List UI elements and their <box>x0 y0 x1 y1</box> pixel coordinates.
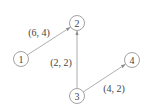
edge-labels: (6, 4) (2, 2) (4, 2) <box>28 27 125 95</box>
node-1[interactable]: 1 <box>14 52 29 67</box>
node-2-label: 2 <box>75 18 80 29</box>
node-4-label: 4 <box>130 55 135 66</box>
edge-label-3-to-4: (4, 2) <box>103 83 125 95</box>
node-3[interactable]: 3 <box>70 89 85 104</box>
edge-label-3-to-2: (2, 2) <box>50 57 72 69</box>
node-4[interactable]: 4 <box>125 53 140 68</box>
node-3-label: 3 <box>75 91 80 102</box>
node-1-label: 1 <box>19 54 24 65</box>
directed-graph-diagram: (6, 4) (2, 2) (4, 2) 1 2 3 4 <box>0 0 150 108</box>
node-2[interactable]: 2 <box>70 16 85 31</box>
edge-label-1-to-2: (6, 4) <box>28 27 50 39</box>
